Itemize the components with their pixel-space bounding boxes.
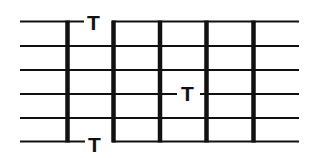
tab-grid-diagram: T T T (0, 0, 321, 158)
markers: T T T (87, 11, 194, 156)
marker-middle-t: T (181, 82, 194, 105)
marker-top-t: T (87, 11, 100, 34)
vertical-bars (68, 21, 254, 143)
marker-bottom-t: T (88, 133, 101, 156)
